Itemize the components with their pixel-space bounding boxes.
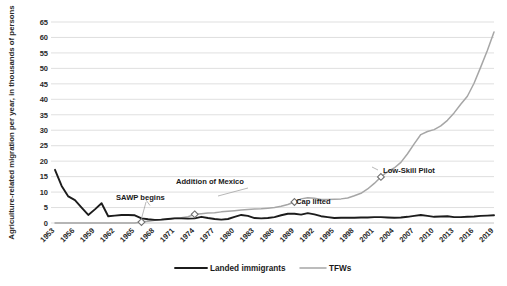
y-axis-tick-label: 55	[40, 49, 48, 58]
x-axis-tick-label: 2016	[457, 226, 475, 244]
x-axis-tick-label: 1965	[118, 226, 136, 244]
y-axis-title: Agriculture-related migration per year, …	[7, 5, 16, 240]
annotation-label: Addition of Mexico	[176, 177, 244, 186]
x-axis-tick-label: 1995	[318, 226, 336, 244]
y-axis-tick-label: 25	[40, 141, 48, 150]
y-axis-tick-label: 5	[44, 203, 48, 212]
annotation-label: SAWP begins	[116, 193, 165, 202]
x-axis-tick-label: 1956	[58, 226, 76, 244]
x-axis-tick-label: 1998	[338, 226, 356, 244]
line-chart: 05101520253035404550556065 1953195619591…	[0, 0, 507, 286]
x-axis-tick-label: 1977	[198, 226, 216, 244]
legend-label-landed-immigrants: Landed immigrants	[210, 264, 286, 273]
annotation-marker	[138, 219, 145, 226]
annotation-label: Cap lifted	[296, 197, 331, 206]
y-axis-tick-label: 20	[40, 157, 48, 166]
x-axis-tick-label: 2013	[437, 226, 455, 244]
y-axis-tick-label: 50	[40, 64, 48, 73]
x-axis-tick-label: 2001	[358, 226, 376, 244]
x-axis-tick-label: 1986	[258, 226, 276, 244]
x-axis-tick-label: 1980	[218, 226, 236, 244]
y-axis-tick-label: 40	[40, 95, 48, 104]
annotation-marker	[191, 211, 198, 218]
annotation-leader-line	[372, 167, 378, 170]
chart-legend: Landed immigrantsTFWs	[175, 264, 352, 273]
annotation-label: Low-Skill Pilot	[383, 166, 435, 175]
x-axis-tick-label: 2007	[397, 226, 415, 244]
y-axis-tick-label: 65	[40, 18, 48, 27]
x-axis-tick-label: 1983	[238, 226, 256, 244]
y-axis-tick-label: 45	[40, 80, 48, 89]
chart-container: 05101520253035404550556065 1953195619591…	[0, 0, 507, 286]
y-axis-tick-label: 10	[40, 188, 48, 197]
y-axis-tick-label: 35	[40, 111, 48, 120]
x-axis-tick-label: 1974	[178, 225, 197, 244]
y-axis-tick-label: 30	[40, 126, 48, 135]
x-axis-tick-label: 1989	[278, 226, 296, 244]
legend-label-tfws: TFWs	[329, 264, 352, 273]
annotation-leader-line	[142, 202, 147, 219]
x-axis-tick-label: 1971	[158, 226, 176, 244]
y-axis-tick-label: 0	[44, 219, 48, 228]
x-axis-tick-label: 1962	[98, 226, 116, 244]
x-axis-tick-label: 2004	[377, 225, 396, 244]
x-axis-tick-label: 2010	[417, 226, 435, 244]
x-axis-tick-label: 1968	[138, 226, 156, 244]
x-axis-tick-label: 1959	[78, 226, 96, 244]
y-axis-tick-label: 60	[40, 33, 48, 42]
x-axis-tick-label: 2019	[477, 226, 495, 244]
x-axis-tick-label: 1992	[298, 226, 316, 244]
y-axis-tick-labels: 05101520253035404550556065	[40, 18, 48, 228]
x-axis-tick-labels: 1953195619591962196519681971197419771980…	[38, 225, 495, 244]
y-axis-tick-label: 15	[40, 172, 48, 181]
x-axis-tick-label: 1953	[38, 226, 56, 244]
